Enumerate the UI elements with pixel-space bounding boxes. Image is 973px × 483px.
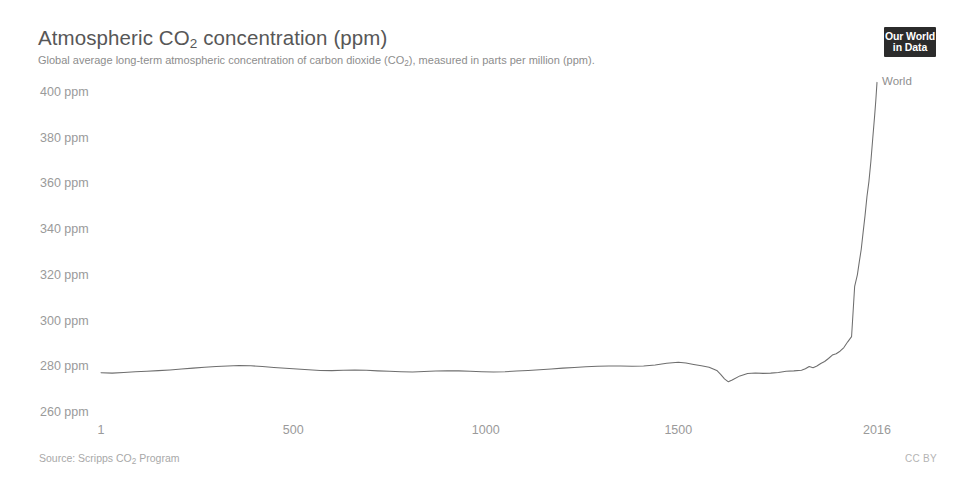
- y-axis-tick-300: 300 ppm: [40, 314, 89, 328]
- plot-area: [0, 0, 973, 483]
- x-axis-tick-1: 1: [98, 423, 105, 437]
- source-text-b: Program: [136, 452, 179, 464]
- series-label-world: World: [882, 75, 912, 87]
- chart-header: Atmospheric CO2 concentration (ppm) Glob…: [38, 26, 868, 67]
- x-axis-tick-1500: 1500: [664, 423, 692, 437]
- x-axis-tick-2016: 2016: [863, 423, 891, 437]
- chart-subtitle-part-b: ), measured in parts per million (ppm).: [409, 54, 595, 66]
- chart-title-tail: concentration (ppm): [197, 26, 387, 49]
- chart-title-main: Atmospheric CO: [38, 26, 190, 49]
- chart-subtitle-subscript: 2: [404, 59, 409, 68]
- chart-title-subscript: 2: [190, 36, 198, 51]
- line-chart-svg: [0, 0, 973, 483]
- series-line-world: [101, 82, 877, 381]
- chart-subtitle: Global average long-term atmospheric con…: [38, 54, 868, 67]
- our-world-in-data-logo[interactable]: Our World in Data: [884, 27, 936, 57]
- y-axis-tick-280: 280 ppm: [40, 359, 89, 373]
- license-note: CC BY: [905, 453, 937, 464]
- y-axis-tick-260: 260 ppm: [40, 405, 89, 419]
- chart-subtitle-part-a: Global average long-term atmospheric con…: [38, 54, 404, 66]
- logo-line-2: in Data: [893, 42, 927, 53]
- page-title: Atmospheric CO2 concentration (ppm): [38, 26, 868, 50]
- source-text-a: Source: Scripps CO: [39, 452, 132, 464]
- chart-source-note: Source: Scripps CO2 Program: [39, 452, 180, 464]
- y-axis-tick-400: 400 ppm: [40, 85, 89, 99]
- y-axis-tick-360: 360 ppm: [40, 176, 89, 190]
- y-axis-tick-340: 340 ppm: [40, 222, 89, 236]
- source-subscript: 2: [132, 457, 137, 466]
- chart-card: Atmospheric CO2 concentration (ppm) Glob…: [0, 0, 973, 483]
- x-axis-tick-1000: 1000: [472, 423, 500, 437]
- x-axis-tick-500: 500: [283, 423, 304, 437]
- y-axis-tick-320: 320 ppm: [40, 268, 89, 282]
- y-axis-tick-380: 380 ppm: [40, 131, 89, 145]
